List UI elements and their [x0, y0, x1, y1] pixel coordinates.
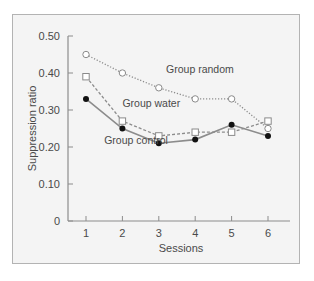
- marker-open-circle-group-random: [83, 51, 89, 57]
- y-tick-label: 0.40: [39, 67, 60, 79]
- marker-open-square-group-water: [119, 118, 125, 124]
- x-tick-label: 4: [192, 227, 198, 239]
- x-tick-label: 1: [83, 227, 89, 239]
- y-tick-label: 0.10: [39, 178, 60, 190]
- series-label: Group control: [104, 134, 168, 146]
- x-tick-label: 6: [265, 227, 271, 239]
- marker-open-circle-group-random: [228, 96, 234, 102]
- marker-filled-circle-group-control: [265, 133, 271, 139]
- series-label: Group random: [166, 63, 234, 75]
- y-tick-label: 0: [54, 215, 60, 227]
- marker-open-square-group-water: [83, 74, 89, 80]
- marker-open-square-group-water: [265, 118, 271, 124]
- marker-open-circle-group-random: [119, 70, 125, 76]
- marker-filled-circle-group-control: [192, 137, 198, 143]
- line-chart: 00.100.200.300.400.50123456SessionsSuppr…: [0, 0, 314, 281]
- marker-open-square-group-water: [228, 129, 234, 135]
- x-tick-label: 5: [229, 227, 235, 239]
- x-tick-label: 3: [156, 227, 162, 239]
- marker-open-circle-group-random: [265, 125, 271, 131]
- marker-open-square-group-water: [192, 129, 198, 135]
- x-axis-title: Sessions: [159, 242, 204, 254]
- marker-filled-circle-group-control: [83, 96, 89, 102]
- y-tick-label: 0.30: [39, 104, 60, 116]
- marker-filled-circle-group-control: [119, 126, 125, 132]
- series-label: Group water: [122, 97, 180, 109]
- x-tick-label: 2: [119, 227, 125, 239]
- y-tick-label: 0.20: [39, 141, 60, 153]
- marker-filled-circle-group-control: [229, 122, 235, 128]
- y-axis-title: Suppression ratio: [26, 86, 38, 172]
- marker-open-circle-group-random: [156, 85, 162, 91]
- y-tick-label: 0.50: [39, 30, 60, 42]
- marker-open-circle-group-random: [192, 96, 198, 102]
